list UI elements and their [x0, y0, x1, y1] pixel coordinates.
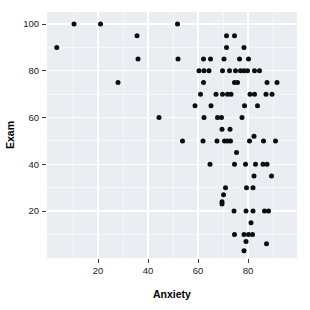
tick-label-y: 80: [28, 65, 39, 76]
data-point: [257, 68, 262, 73]
data-point: [248, 92, 253, 97]
data-point: [264, 241, 269, 246]
data-point: [244, 209, 249, 214]
tick-label-x: 60: [193, 265, 204, 276]
data-point: [227, 68, 232, 73]
data-point: [209, 103, 214, 108]
data-point: [232, 33, 237, 38]
data-point: [255, 103, 260, 108]
data-point: [252, 173, 257, 178]
data-point: [193, 103, 198, 108]
data-point: [269, 173, 274, 178]
chart-figure: 2040608020406080100 Anxiety Exam: [0, 0, 310, 310]
data-point: [266, 209, 271, 214]
data-point: [116, 80, 121, 85]
data-point: [228, 138, 233, 143]
data-point: [176, 57, 181, 62]
data-point: [233, 68, 238, 73]
data-point: [250, 232, 255, 237]
data-point: [232, 209, 237, 214]
data-point: [224, 45, 229, 50]
data-point: [157, 115, 162, 120]
data-point: [208, 162, 213, 167]
plot-panel-background: [47, 12, 297, 258]
data-point: [222, 57, 227, 62]
tick-label-y: 60: [28, 112, 39, 123]
data-point: [207, 68, 212, 73]
data-point: [202, 115, 207, 120]
data-point: [252, 134, 257, 139]
data-point: [253, 162, 258, 167]
data-point: [275, 80, 280, 85]
data-point: [242, 103, 247, 108]
tick-label-y: 100: [23, 18, 39, 29]
data-point: [219, 115, 224, 120]
data-point: [198, 92, 203, 97]
y-axis-title: Exam: [4, 121, 16, 149]
data-point: [273, 138, 278, 143]
data-point: [136, 57, 141, 62]
data-point: [242, 45, 247, 50]
data-point: [228, 127, 233, 132]
data-point: [72, 22, 77, 27]
data-point: [197, 68, 202, 73]
data-point: [221, 192, 226, 197]
data-point: [220, 92, 225, 97]
data-point: [201, 138, 206, 143]
data-point: [251, 209, 256, 214]
data-point: [214, 92, 219, 97]
data-point: [215, 138, 220, 143]
data-point: [261, 138, 266, 143]
data-point: [175, 22, 180, 27]
data-point: [229, 92, 234, 97]
data-point: [264, 92, 269, 97]
data-point: [54, 45, 59, 50]
data-point: [220, 201, 225, 206]
tick-label-y: 20: [28, 205, 39, 216]
scatter-plot-svg: 2040608020406080100 Anxiety Exam: [0, 0, 310, 310]
data-point: [242, 248, 247, 253]
data-point: [244, 185, 249, 190]
data-point: [246, 57, 251, 62]
data-point: [235, 80, 240, 85]
data-point: [245, 68, 250, 73]
data-point: [252, 68, 257, 73]
data-point: [243, 162, 248, 167]
data-point: [270, 92, 275, 97]
data-point: [234, 150, 239, 155]
tick-label-x: 80: [243, 265, 254, 276]
data-point: [223, 185, 228, 190]
data-point: [252, 92, 257, 97]
data-point: [265, 162, 270, 167]
data-point: [220, 127, 225, 132]
data-point: [237, 57, 242, 62]
data-point: [247, 138, 252, 143]
data-point: [135, 33, 140, 38]
tick-label-y: 40: [28, 159, 39, 170]
data-point: [251, 185, 256, 190]
data-point: [249, 220, 254, 225]
data-point: [201, 57, 206, 62]
data-point: [232, 162, 237, 167]
x-axis-title: Anxiety: [153, 288, 191, 300]
data-point: [180, 138, 185, 143]
data-point: [242, 232, 247, 237]
data-point: [265, 80, 270, 85]
data-point: [224, 33, 229, 38]
data-point: [220, 68, 225, 73]
tick-label-x: 20: [93, 265, 104, 276]
data-point: [202, 68, 207, 73]
tick-label-x: 40: [143, 265, 154, 276]
data-point: [201, 80, 206, 85]
data-point: [98, 22, 103, 27]
data-point: [240, 115, 245, 120]
data-point: [232, 232, 237, 237]
data-point: [244, 239, 249, 244]
data-point: [208, 57, 213, 62]
